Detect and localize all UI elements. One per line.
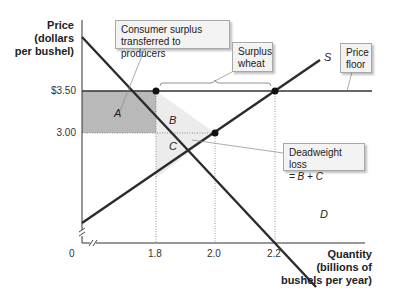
point-quantity-supplied (272, 88, 279, 95)
y-axis-title-line3: per bushel) (8, 45, 74, 58)
area-b-label: B (169, 114, 176, 126)
surplus-wheat-callout-line1: Surplus (238, 46, 267, 58)
price-floor-callout-line2: floor (346, 59, 366, 71)
point-quantity-demanded (153, 88, 160, 95)
x-axis-title: Quantity (billions of bushels per year) (260, 248, 372, 287)
x-axis-title-line3: bushels per year) (260, 274, 372, 287)
consumer-surplus-callout-line2: transferred to producers (121, 36, 224, 60)
deadweight-loss-callout-line2: = B + C (289, 171, 359, 183)
surplus-wheat-callout-line2: wheat (238, 58, 267, 70)
demand-label: D (320, 208, 328, 220)
y-axis-title-line1: Price (8, 19, 74, 32)
consumer-surplus-callout: Consumer surplus transferred to producer… (115, 20, 230, 49)
y-tick-350: $3.50 (40, 85, 76, 97)
deadweight-leader (192, 140, 283, 153)
price-floor-callout-line1: Price (346, 47, 366, 59)
price-floor-leader (347, 72, 352, 91)
y-axis-title-line2: (dollars (8, 32, 74, 45)
price-floor-callout: Price floor (340, 43, 372, 73)
x-tick-20: 2.0 (207, 248, 221, 260)
surplus-wheat-callout: Surplus wheat (232, 42, 273, 72)
y-axis-title: Price (dollars per bushel) (8, 19, 74, 58)
deadweight-loss-callout-line1: Deadweight loss (289, 147, 359, 171)
surplus-wheat-leader (215, 72, 232, 81)
supply-label: S (324, 51, 331, 63)
y-tick-300: 3.00 (40, 127, 76, 139)
x-tick-0: 0 (69, 248, 75, 260)
consumer-surplus-callout-line1: Consumer surplus (121, 24, 224, 36)
point-equilibrium (212, 130, 219, 137)
x-axis-break-icon (89, 240, 97, 246)
deadweight-loss-callout: Deadweight loss = B + C (283, 143, 365, 171)
x-tick-18: 1.8 (148, 248, 162, 260)
area-a-label: A (114, 107, 121, 119)
x-axis-title-line1: Quantity (260, 248, 372, 261)
area-c-label: C (169, 140, 177, 152)
x-axis-title-line2: (billions of (260, 261, 372, 274)
